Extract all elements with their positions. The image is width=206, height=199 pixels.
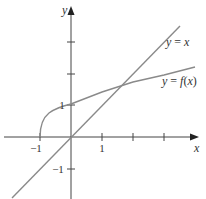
y-axis-arrow-icon [68,6,75,15]
label-y-equals-fx: y = f(x) [161,74,197,88]
tick-label-y-1: 1 [59,99,65,111]
graph: −1 1 1 −1 y x y = x y = f(x) [0,0,206,199]
x-axis-arrow-icon [190,134,199,141]
x-axis-label: x [193,141,200,155]
tick-label-y-neg1: −1 [52,163,64,175]
label-y-equals-x: y = x [165,35,190,49]
tick-label-x-1: 1 [99,142,105,154]
tick-label-x-neg1: −1 [30,142,42,154]
y-axis-label: y [61,3,68,17]
line-y-equals-x [12,26,180,198]
